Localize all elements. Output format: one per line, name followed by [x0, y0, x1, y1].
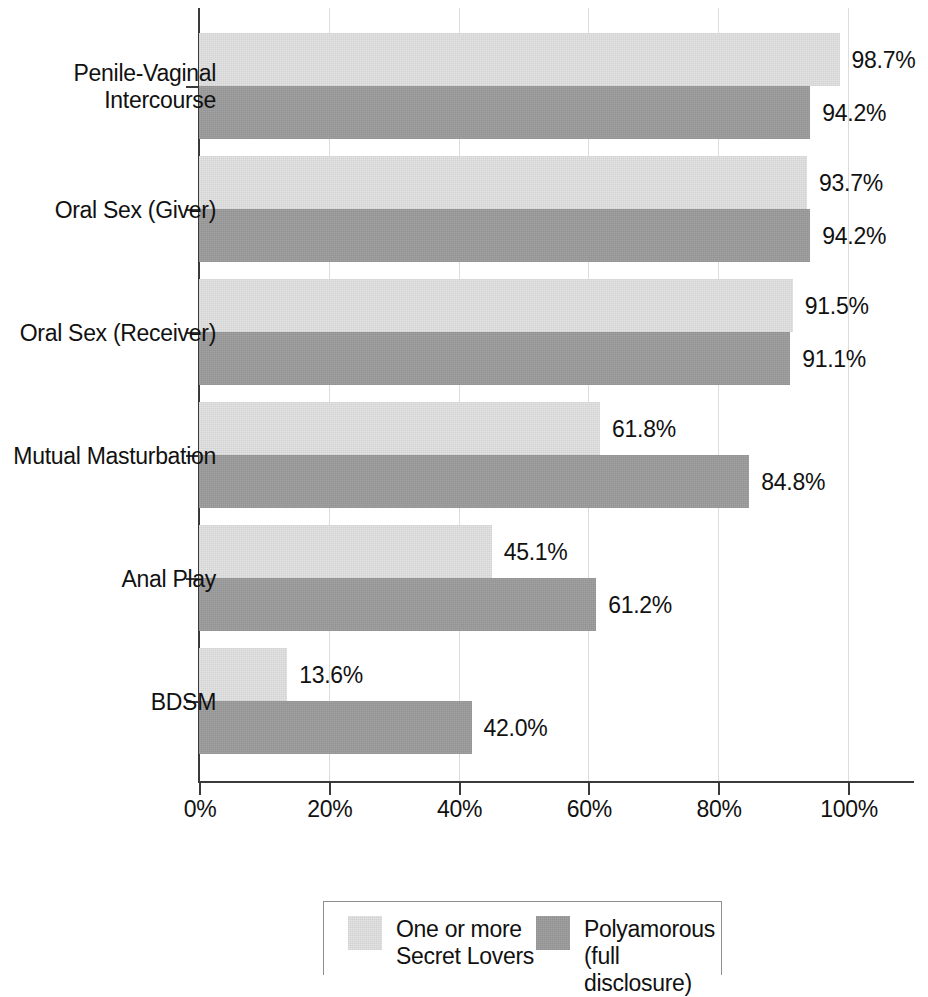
bar-value-label: 13.6%	[299, 662, 363, 688]
category-label: Oral Sex (Receiver)	[20, 320, 216, 347]
x-axis-line	[198, 781, 914, 783]
bar	[199, 402, 600, 455]
x-axis-tick	[848, 783, 850, 795]
bar-value-label: 91.1%	[802, 346, 866, 372]
category-label: Mutual Masturbation	[13, 443, 216, 470]
bar	[199, 279, 793, 332]
bar	[199, 209, 810, 262]
legend-label-secret-lovers: One or more Secret Lovers	[396, 916, 534, 970]
category-label: BDSM	[151, 689, 216, 716]
bar-value-label: 91.5%	[805, 293, 869, 319]
bar-value-label: 42.0%	[484, 715, 548, 741]
bar-value-label: 98.7%	[852, 47, 916, 73]
x-axis-tick	[718, 783, 720, 795]
bar-value-label: 94.2%	[822, 223, 886, 249]
bar-value-label: 45.1%	[504, 539, 568, 565]
x-axis-tick	[588, 783, 590, 795]
chart-legend: One or more Secret Lovers Polyamorous (f…	[323, 901, 722, 975]
x-axis-tick-label: 0%	[184, 796, 217, 822]
x-axis-tick	[199, 783, 201, 795]
bar	[199, 33, 840, 86]
bar-value-label: 93.7%	[819, 170, 883, 196]
bar	[199, 332, 790, 385]
legend-label-polyamorous: Polyamorous (full disclosure)	[584, 916, 721, 997]
bar-value-label: 61.8%	[612, 416, 676, 442]
x-axis-tick-label: 100%	[820, 796, 878, 822]
x-axis-tick	[329, 783, 331, 795]
x-axis-tick-label: 20%	[307, 796, 352, 822]
bar-value-label: 94.2%	[822, 100, 886, 126]
legend-entry-polyamorous: Polyamorous (full disclosure)	[536, 916, 721, 997]
x-axis-tick-label: 60%	[567, 796, 612, 822]
category-label: Anal Play	[122, 566, 216, 593]
bar-value-label: 84.8%	[761, 469, 825, 495]
bar-value-label: 61.2%	[608, 592, 672, 618]
x-axis-tick-label: 80%	[697, 796, 742, 822]
x-axis-tick-label: 40%	[437, 796, 482, 822]
legend-swatch-icon-light	[348, 916, 382, 950]
bar	[199, 701, 472, 754]
bar	[199, 455, 749, 508]
x-axis-tick	[459, 783, 461, 795]
bar	[199, 525, 492, 578]
legend-entry-secret-lovers: One or more Secret Lovers	[348, 916, 534, 970]
category-label: Penile-Vaginal Intercourse	[74, 60, 216, 114]
bar	[199, 578, 596, 631]
bar	[199, 86, 810, 139]
legend-swatch-icon-dark	[536, 916, 570, 950]
bar	[199, 156, 807, 209]
category-label: Oral Sex (Giver)	[55, 197, 216, 224]
